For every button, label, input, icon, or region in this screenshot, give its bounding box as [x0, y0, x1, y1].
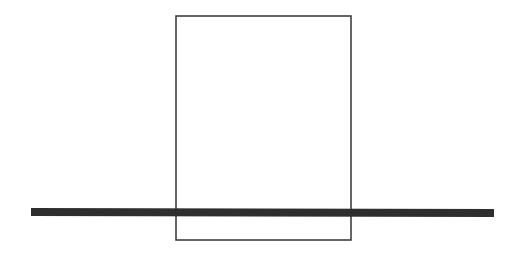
diagram-canvas [0, 0, 521, 260]
thick-horizontal-bar [31, 212, 494, 213]
outlined-rectangle [176, 16, 351, 240]
